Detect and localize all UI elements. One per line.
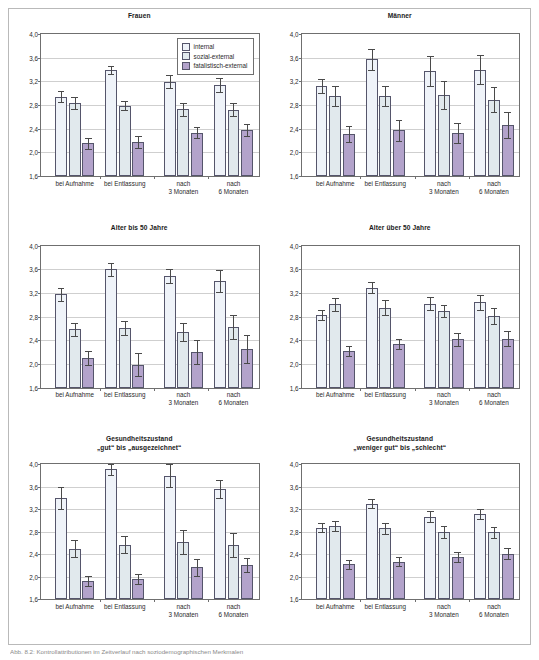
error-bar-cap (491, 112, 498, 113)
x-axis-label-line2: 6 Monaten (219, 399, 249, 407)
error-bar-cap (71, 557, 78, 558)
chart-panel-4: Alter über 50 Jahre4,03,63,22,82,42,01,6… (270, 221, 531, 433)
plot-area-5: 4,03,63,22,82,42,01,6bei Aufnahmebei Ent… (40, 463, 260, 600)
error-bar-cap (427, 511, 434, 512)
y-axis-tick-label: 3,2 (16, 289, 38, 296)
chart-title-4: Alter über 50 Jahre (270, 224, 531, 232)
error-bar-cap (396, 349, 403, 350)
plot-area-4: 4,03,63,22,82,42,01,6bei Aufnahmebei Ent… (301, 245, 521, 389)
error-bar (247, 124, 248, 136)
error-bar-cap (180, 341, 187, 342)
chart-title-line1: Gesundheitszustand (366, 435, 433, 442)
x-axis-tick-mark (360, 599, 361, 602)
y-axis-tick-label: 4,0 (277, 242, 299, 249)
bar (316, 528, 328, 599)
error-bar-cap (318, 310, 325, 311)
error-bar-cap (441, 109, 448, 110)
error-bar (197, 340, 198, 364)
error-bar-cap (504, 346, 511, 347)
y-axis-tick-label: 2,8 (277, 313, 299, 320)
error-bar-cap (477, 310, 484, 311)
bar (164, 82, 176, 176)
error-bar-cap (382, 106, 389, 107)
error-bar-cap (85, 149, 92, 150)
error-bar-cap (244, 124, 251, 125)
x-axis-label-line2: 3 Monaten (429, 611, 459, 619)
chart-title-2: Männer (270, 12, 531, 20)
legend-item-label: internal (194, 43, 215, 50)
chart-title-line2: „weniger gut“ bis „schlecht“ (270, 444, 531, 452)
error-bar (399, 339, 400, 350)
error-bar-cap (58, 487, 65, 488)
bar (316, 86, 328, 176)
error-bar (75, 97, 76, 109)
y-axis-tick-label: 2,0 (16, 360, 38, 367)
bar (329, 526, 341, 600)
error-bar-cap (85, 586, 92, 587)
error-bar-cap (396, 120, 403, 121)
error-bar (233, 315, 234, 339)
legend-item[interactable]: fatalistisch-external (182, 61, 248, 71)
y-axis-tick-label: 3,2 (16, 78, 38, 85)
error-bar (61, 487, 62, 508)
error-bar (111, 66, 112, 74)
x-axis-label-line1: bei Entlassung (365, 180, 406, 188)
error-bar (61, 91, 62, 102)
y-axis-tick-label: 3,6 (16, 54, 38, 61)
error-bar-cap (108, 464, 115, 465)
error-bar (197, 559, 198, 576)
error-bar-cap (368, 70, 375, 71)
x-axis-label: nach6 Monaten (479, 391, 509, 407)
error-bar-cap (382, 315, 389, 316)
x-axis-label-line1: bei Aufnahme (55, 391, 94, 399)
x-axis-label-line1: nach (429, 603, 459, 611)
error-bar-cap (396, 557, 403, 558)
chart-title-3: Alter bis 50 Jahre (9, 224, 270, 232)
x-axis-tick-mark (415, 176, 416, 179)
x-axis-label: bei Entlassung (365, 391, 406, 399)
error-bar-cap (491, 538, 498, 539)
y-axis-tick-label: 2,8 (16, 102, 38, 109)
y-axis-tick-mark (38, 176, 41, 177)
error-bar-cap (382, 523, 389, 524)
bar (424, 517, 436, 600)
chart-title-line1: Alter über 50 Jahre (369, 224, 431, 231)
error-bar-cap (244, 572, 251, 573)
x-axis-label: bei Aufnahme (55, 391, 94, 399)
error-bar (75, 540, 76, 557)
error-bar-cap (135, 584, 142, 585)
error-bar (322, 79, 323, 93)
chart-panel-6: Gesundheitszustand„weniger gut“ bis „sch… (270, 432, 531, 644)
error-bar-cap (135, 376, 142, 377)
error-bar-cap (427, 522, 434, 523)
error-bar-cap (166, 88, 173, 89)
x-axis-label-line1: nach (169, 180, 199, 188)
error-bar (494, 527, 495, 538)
error-bar (138, 136, 139, 148)
error-bar (170, 269, 171, 283)
y-axis-tick-mark (299, 176, 302, 177)
legend-item[interactable]: sozial-external (182, 52, 248, 62)
chart-legend: internalsozial-externalfatalistisch-exte… (177, 38, 254, 75)
x-axis-label: nach3 Monaten (169, 180, 199, 196)
error-bar-cap (216, 498, 223, 499)
legend-swatch-icon (182, 52, 190, 60)
chart-panel-3: Alter bis 50 Jahre4,03,63,22,82,42,01,6b… (9, 221, 270, 433)
legend-item[interactable]: internal (182, 42, 248, 52)
error-bar (508, 112, 509, 138)
bar (379, 96, 391, 176)
y-axis-tick-label: 2,0 (277, 149, 299, 156)
bar (379, 308, 391, 388)
x-axis-label: nach3 Monaten (429, 391, 459, 407)
x-axis-label: bei Aufnahme (55, 603, 94, 611)
error-bar-cap (194, 576, 201, 577)
bar (502, 554, 514, 600)
bar (366, 59, 378, 176)
legend-swatch-icon (182, 62, 190, 70)
error-bar-cap (121, 110, 128, 111)
x-axis-label-line2: 6 Monaten (219, 611, 249, 619)
error-bar (220, 78, 221, 92)
error-bar-cap (368, 282, 375, 283)
bar (119, 106, 131, 176)
error-bar-cap (491, 527, 498, 528)
